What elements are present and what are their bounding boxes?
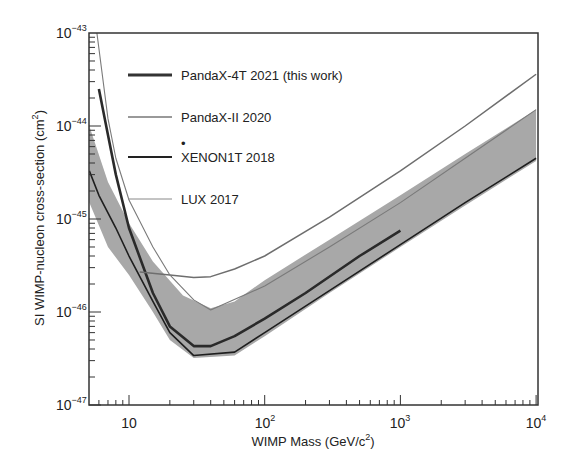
x-tick-10000: 104	[526, 413, 547, 431]
x-axis-title: WIMP Mass (GeV/c2)	[251, 432, 374, 449]
legend-label-lux: LUX 2017	[181, 192, 239, 207]
x-tick-1000: 103	[390, 413, 411, 431]
legend-label-xenon1t: XENON1T 2018	[181, 150, 275, 165]
y-tick-1e-47: 10−47	[56, 395, 87, 413]
y-tick-1e-44: 10−44	[56, 116, 87, 134]
exclusion-limit-chart: 10 102 103 104 10−47 10−46 10−45 10−44 1…	[0, 0, 572, 470]
y-tick-1e-43: 10−43	[56, 23, 87, 41]
y-tick-1e-45: 10−45	[56, 209, 87, 227]
x-tick-10: 10	[121, 415, 137, 431]
axis-ticks	[89, 37, 536, 405]
legend-marker-dot: •	[181, 136, 186, 151]
legend-label-pandaxii: PandaX-II 2020	[181, 110, 271, 125]
x-tick-100: 102	[255, 413, 276, 431]
plot-frame	[89, 33, 538, 405]
y-axis-title: SI WIMP-nucleon cross-section (cm2)	[30, 110, 47, 326]
sensitivity-band	[89, 110, 536, 358]
y-tick-1e-46: 10−46	[56, 302, 87, 320]
legend-label-pandax4t: PandaX-4T 2021 (this work)	[181, 68, 343, 83]
legend: PandaX-4T 2021 (this work) PandaX-II 202…	[128, 68, 343, 207]
